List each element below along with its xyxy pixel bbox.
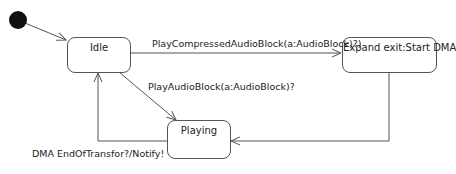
initial-state-node[interactable] (9, 11, 27, 29)
transition-idle-to-playing[interactable] (119, 72, 176, 120)
transition-label-idle-to-expand: PlayCompressedAudioBlock(a:AudioBlock)?) (152, 38, 361, 49)
transition-label-playing-to-idle: DMA EndOfTransfor?/Notify! (32, 148, 164, 159)
transition-initial-to-idle[interactable] (25, 23, 66, 40)
transition-label-idle-to-playing: PlayAudioBlock(a:AudioBlock)? (148, 81, 295, 92)
state-idle-label: Idle (90, 42, 108, 53)
state-idle[interactable]: Idle (67, 37, 131, 73)
state-playing[interactable]: Playing (167, 120, 231, 159)
state-playing-label: Playing (181, 125, 217, 136)
